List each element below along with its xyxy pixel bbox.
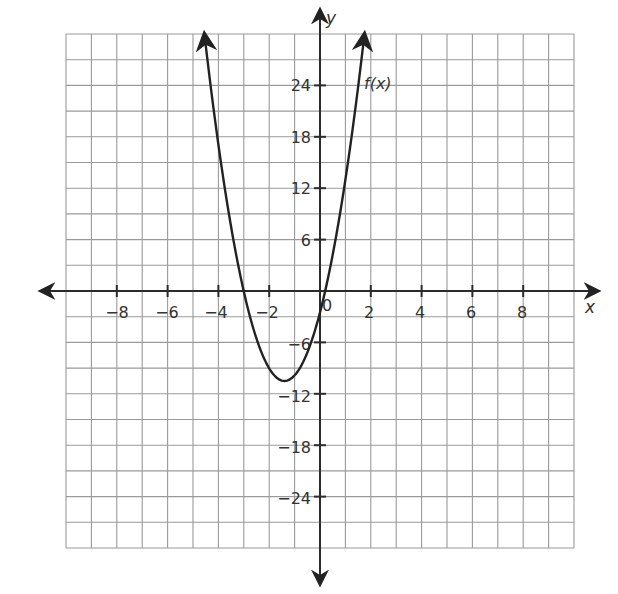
y-tick-label: 18 (291, 128, 311, 147)
function-label: f(x) (364, 74, 392, 93)
x-tick-label: −4 (204, 303, 228, 322)
y-tick-label: 24 (291, 76, 311, 95)
y-tick-label: −18 (277, 438, 311, 457)
y-tick-label: 12 (291, 179, 311, 198)
x-tick-label: 4 (415, 303, 425, 322)
x-tick-label: 2 (364, 303, 374, 322)
x-tick-label: −2 (255, 303, 279, 322)
axes (41, 10, 598, 584)
function-curve (204, 34, 364, 381)
y-axis-label: y (325, 8, 337, 28)
y-tick-label: −12 (277, 387, 311, 406)
x-axis-label: x (584, 297, 596, 317)
x-tick-label: 6 (466, 303, 476, 322)
x-tick-label: −8 (105, 303, 129, 322)
coordinate-plane: −8 −6 −4 −2 2 4 6 8 24 18 12 6 −6 −12 −1… (0, 0, 618, 594)
x-tick-labels: −8 −6 −4 −2 2 4 6 8 (105, 303, 527, 322)
x-tick-label: 8 (517, 303, 527, 322)
y-tick-label: −24 (277, 489, 311, 508)
y-tick-label: 6 (301, 231, 311, 250)
x-tick-label: −6 (155, 303, 179, 322)
